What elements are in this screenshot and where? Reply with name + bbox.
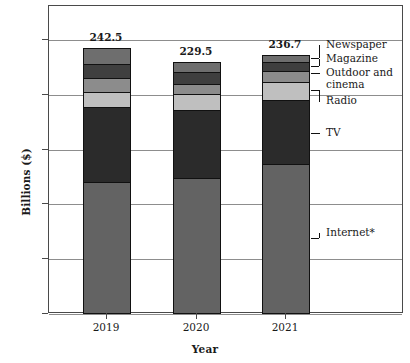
bar-segment-2020-newspaper[interactable] [173, 62, 221, 72]
bar-total-2020: 229.5 [151, 45, 241, 57]
bar-segment-2019-magazine[interactable] [83, 64, 131, 79]
legend-label-text-line2: cinema [326, 79, 393, 91]
bar-total-2021: 236.7 [240, 38, 330, 50]
legend-leader-line-tv [311, 133, 320, 134]
legend-label-text: Newspaper [326, 39, 387, 51]
bar-segment-2021-tv[interactable] [262, 100, 310, 164]
legend-leader-stub-magazine [311, 66, 319, 67]
bar-segment-2019-newspaper[interactable] [83, 48, 131, 63]
bar-segment-2021-newspaper[interactable] [262, 55, 310, 63]
bar-2021[interactable] [262, 6, 310, 314]
x-tick-mark-2021 [285, 313, 286, 319]
legend-label-text: Magazine [326, 53, 378, 65]
bar-segment-2020-radio[interactable] [173, 94, 221, 109]
x-tick-label-2019: 2019 [71, 321, 141, 333]
stacked-bar-chart: Billions ($) 050100150200250 20192020202… [0, 0, 410, 363]
x-tick-label-2021: 2021 [250, 321, 320, 333]
legend-label-text: Radio [326, 95, 357, 107]
bar-segment-2021-internet[interactable] [262, 164, 310, 314]
gridline-0 [49, 314, 402, 315]
x-axis-title: Year [0, 343, 410, 355]
bar-segment-2020-magazine[interactable] [173, 72, 221, 84]
legend-label-text: Internet* [326, 227, 375, 239]
bar-segment-2019-radio[interactable] [83, 92, 131, 108]
bar-segment-2021-magazine[interactable] [262, 62, 310, 70]
bar-segment-2020-outdoor-and-cinema[interactable] [173, 84, 221, 94]
legend-leader-elbow-magazine [319, 59, 320, 66]
legend-label-tv: TV [326, 127, 341, 139]
legend-label-outdoor-and-cinema: Outdoor andcinema [326, 67, 393, 90]
bar-segment-2019-tv[interactable] [83, 107, 131, 182]
legend-leader-line-radio [319, 101, 320, 102]
bar-total-2019: 242.5 [61, 31, 151, 43]
bar-segment-2020-internet[interactable] [173, 178, 221, 314]
bar-segment-2020-tv[interactable] [173, 110, 221, 178]
legend-leader-stub-internet [311, 238, 319, 239]
legend-leader-stub-newspaper [311, 58, 319, 59]
legend-leader-stub-radio [311, 90, 319, 91]
bar-segment-2021-outdoor-and-cinema[interactable] [262, 71, 310, 82]
y-axis-title: Billions ($) [20, 148, 32, 215]
y-tick-mark-0 [42, 313, 48, 314]
legend-leader-elbow-radio [319, 90, 320, 101]
x-tick-mark-2020 [196, 313, 197, 319]
legend-leader-elbow-internet [319, 233, 320, 238]
legend-leader-line-outdoor-and-cinema [311, 73, 320, 74]
bar-2019[interactable] [83, 6, 131, 314]
legend-label-text: TV [326, 127, 341, 139]
x-tick-mark-2019 [106, 313, 107, 319]
x-tick-label-2020: 2020 [161, 321, 231, 333]
bar-segment-2019-internet[interactable] [83, 182, 131, 314]
legend-label-internet: Internet* [326, 227, 375, 239]
bar-segment-2019-outdoor-and-cinema[interactable] [83, 78, 131, 91]
legend-label-text: Outdoor and [326, 67, 393, 79]
bar-segment-2021-radio[interactable] [262, 82, 310, 100]
legend-label-newspaper: Newspaper [326, 39, 387, 51]
legend-label-magazine: Magazine [326, 53, 378, 65]
legend-leader-elbow-newspaper [319, 45, 320, 58]
legend-label-radio: Radio [326, 95, 357, 107]
